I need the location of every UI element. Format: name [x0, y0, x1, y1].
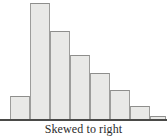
histogram-bar — [130, 106, 150, 120]
histogram-figure: Skewed to right — [0, 0, 167, 137]
histogram-plot-area — [0, 0, 167, 121]
histogram-bar — [10, 96, 30, 120]
baseline-axis — [0, 119, 167, 121]
histogram-bar — [110, 90, 130, 120]
figure-caption: Skewed to right — [0, 122, 167, 136]
histogram-bar — [50, 31, 70, 120]
histogram-bar — [90, 73, 110, 120]
histogram-bar — [70, 55, 90, 120]
histogram-bar — [30, 3, 50, 120]
